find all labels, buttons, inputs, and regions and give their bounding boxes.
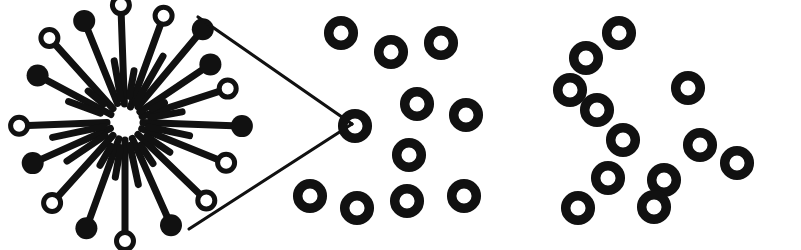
micelle-head-hollow-12 — [198, 192, 215, 209]
micelle-tail-27 — [130, 71, 135, 97]
micelle-head-hollow-8 — [44, 195, 61, 212]
micelle-head-filled-3 — [73, 10, 95, 32]
micelle-head-filled-7 — [22, 152, 44, 174]
micelle-head-hollow-1 — [155, 7, 172, 24]
micelle-head-hollow-10 — [117, 233, 134, 250]
micelle-head-hollow-13 — [218, 154, 235, 171]
micelle-head-filled-5 — [27, 65, 49, 87]
micelle-head-filled-14 — [231, 115, 253, 137]
micelle-head-hollow-0 — [112, 0, 129, 14]
figure-svg — [0, 0, 801, 250]
micelle-head-hollow-15 — [219, 80, 236, 97]
micelle-head-filled-11 — [160, 214, 182, 236]
figure-canvas — [0, 0, 801, 250]
micelle-head-filled-9 — [75, 217, 97, 239]
micelle-head-filled-16 — [199, 53, 221, 75]
micelle-head-hollow-4 — [41, 30, 58, 47]
micelle-head-hollow-6 — [11, 117, 28, 134]
